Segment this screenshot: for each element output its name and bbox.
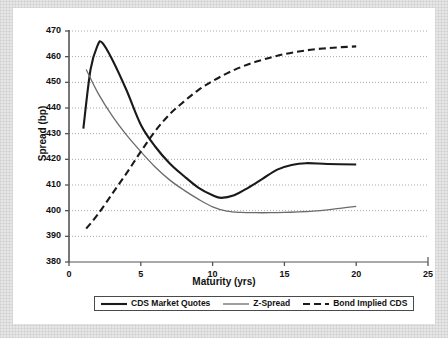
legend-swatch-icon	[101, 300, 127, 308]
gridlines-group	[69, 31, 428, 236]
series-line-1	[83, 41, 356, 198]
legend-item-2[interactable]: Z-Spread	[223, 299, 290, 308]
legend-item-3[interactable]: Bond Implied CDS	[303, 299, 407, 308]
y-tick-label: 410	[31, 179, 61, 189]
legend-label: Bond Implied CDS	[333, 299, 407, 308]
series-line-3	[86, 46, 356, 228]
x-axis-title: Maturity (yrs)	[13, 276, 435, 287]
y-tick-label: 380	[31, 256, 61, 266]
chart-figure: 380390400410420430440450460470 051015202…	[13, 8, 435, 324]
y-tick-label: 400	[31, 205, 61, 215]
data-series-group	[83, 41, 356, 228]
tick-marks-group	[65, 31, 428, 266]
chart-legend: CDS Market QuotesZ-SpreadBond Implied CD…	[94, 296, 414, 311]
y-tick-label: 460	[31, 51, 61, 61]
legend-label: CDS Market Quotes	[131, 299, 210, 308]
legend-item-1[interactable]: CDS Market Quotes	[101, 299, 210, 308]
y-tick-label: 390	[31, 230, 61, 240]
legend-label: Z-Spread	[253, 299, 290, 308]
legend-swatch-icon	[303, 300, 329, 308]
y-axis-title: Spread (bp)	[37, 89, 48, 179]
chart-screenshot: 380390400410420430440450460470 051015202…	[0, 0, 448, 338]
y-tick-label: 450	[31, 76, 61, 86]
legend-swatch-icon	[223, 300, 249, 308]
y-tick-label: 470	[31, 25, 61, 35]
